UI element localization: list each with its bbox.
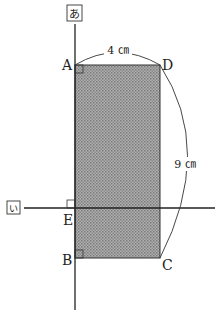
point-b-label: B (62, 252, 72, 268)
diagonal-dimension-label: 9 ㎝ (174, 158, 196, 171)
right-angle-e (67, 200, 75, 208)
point-d-label: D (162, 57, 173, 73)
point-e-label: E (63, 212, 73, 228)
axis-a-label: あ (69, 8, 80, 21)
rectangle-abcd (75, 65, 160, 258)
axis-i-label: い (9, 204, 18, 214)
width-dimension-label: 4 ㎝ (107, 44, 129, 57)
point-c-label: C (162, 257, 173, 273)
point-a-label: A (61, 57, 73, 73)
geometry-diagram: あ い A D E B C 4 ㎝ 9 ㎝ (0, 0, 215, 317)
